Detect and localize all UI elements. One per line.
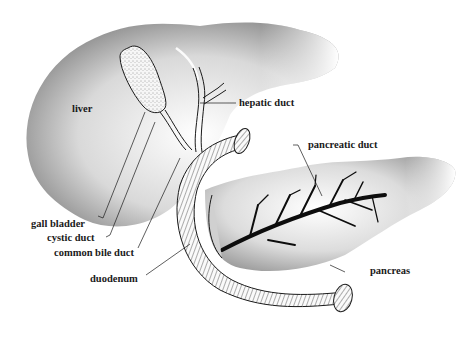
label-gall-bladder: gall bladder bbox=[31, 219, 85, 230]
label-liver: liver bbox=[72, 104, 92, 115]
label-cystic-duct: cystic duct bbox=[47, 233, 95, 244]
label-duodenum: duodenum bbox=[90, 274, 138, 285]
label-pancreas: pancreas bbox=[370, 266, 410, 277]
pancreas-shape bbox=[205, 157, 455, 271]
label-pancreatic-duct: pancreatic duct bbox=[308, 140, 378, 151]
label-common-bile-duct: common bile duct bbox=[54, 248, 134, 259]
label-hepatic-duct: hepatic duct bbox=[239, 98, 294, 109]
anatomy-diagram bbox=[0, 0, 472, 350]
